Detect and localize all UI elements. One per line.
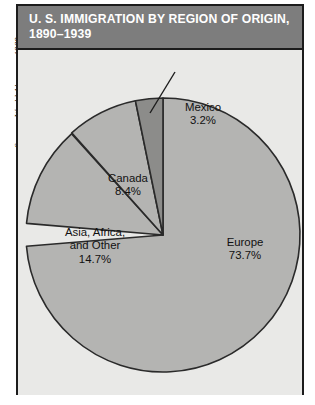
pie-label-mexico-name: Mexico — [165, 101, 241, 114]
chart-title-line-2: 1890–1939 — [29, 27, 292, 42]
figure-frame: U. S. IMMIGRATION BY REGION OF ORIGIN, 1… — [16, 4, 304, 395]
chart-title-bar: U. S. IMMIGRATION BY REGION OF ORIGIN, 1… — [18, 6, 302, 50]
chart-title-line-1: U. S. IMMIGRATION BY REGION OF ORIGIN, — [29, 12, 292, 27]
pie-label-asia-africa-other: Asia, Africa, and Other 14.7% — [40, 226, 150, 266]
pie-label-europe-value: 73.7% — [203, 249, 287, 262]
pie-chart-plot-area: Mexico 3.2% Canada 8.4% Asia, Africa, an… — [18, 50, 302, 395]
pie-label-mexico-value: 3.2% — [165, 114, 241, 127]
pie-label-europe: Europe 73.7% — [203, 236, 287, 263]
pie-chart-svg — [18, 50, 302, 395]
pie-label-mexico: Mexico 3.2% — [165, 101, 241, 128]
pie-label-canada-name: Canada — [90, 172, 166, 185]
pie-label-asia-name-line-1: Asia, Africa, — [40, 226, 150, 239]
pie-label-canada-value: 8.4% — [90, 185, 166, 198]
pie-label-asia-name-line-2: and Other — [40, 239, 150, 252]
pie-label-asia-value: 14.7% — [40, 253, 150, 266]
pie-label-canada: Canada 8.4% — [90, 172, 166, 199]
pie-label-europe-name: Europe — [203, 236, 287, 249]
